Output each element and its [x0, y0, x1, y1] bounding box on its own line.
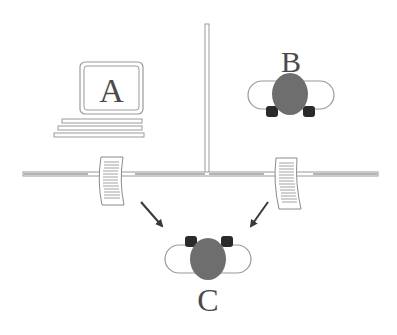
document-icon-right: [275, 158, 301, 209]
horizontal-network-line: [23, 172, 378, 176]
vertical-network-line: [205, 24, 209, 174]
document-icon-left: [99, 157, 124, 205]
diagram-canvas: A B: [0, 0, 397, 335]
person-b-icon: [248, 73, 334, 117]
arrow-left-to-c-icon: [141, 202, 162, 226]
node-label-a: A: [99, 72, 124, 109]
node-label-c: C: [197, 282, 218, 318]
arrow-right-to-c-icon: [251, 202, 268, 226]
person-c-icon: [165, 236, 251, 280]
node-label-b: B: [281, 45, 301, 78]
